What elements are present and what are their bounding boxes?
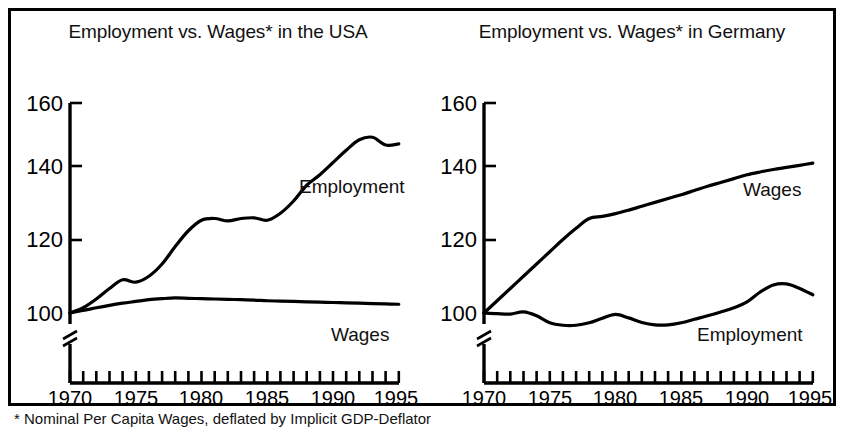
ytick-label-usa-100: 100 <box>26 301 63 326</box>
x-ticks-usa <box>70 371 399 383</box>
series-label-germany-wages: Wages <box>743 179 801 200</box>
ytick-label-de-100: 100 <box>440 301 477 326</box>
series-label-usa-employment: Employment <box>299 176 405 197</box>
xtick-label-de-1990: 1990 <box>725 387 770 409</box>
x-ticks-germany <box>484 371 813 383</box>
figure-root: Employment vs. Wages* in the USA 160 140… <box>0 0 846 428</box>
xtick-label-usa-1985: 1985 <box>245 387 290 409</box>
ytick-label-de-140: 140 <box>440 154 477 179</box>
xtick-label-usa-1975: 1975 <box>114 387 159 409</box>
ytick-label-de-160: 160 <box>440 91 477 116</box>
xtick-label-de-1970: 1970 <box>462 387 507 409</box>
xtick-label-usa-1970: 1970 <box>48 387 93 409</box>
xtick-label-usa-1995: 1995 <box>374 387 419 409</box>
xtick-label-de-1975: 1975 <box>528 387 573 409</box>
figure-frame: Employment vs. Wages* in the USA 160 140… <box>8 8 836 406</box>
xtick-label-de-1995: 1995 <box>788 387 833 409</box>
chart-panel-germany: Employment vs. Wages* in Germany 160 140… <box>425 11 839 403</box>
series-line-germany-employment <box>484 284 813 326</box>
series-line-usa-wages <box>70 298 399 313</box>
xtick-label-usa-1990: 1990 <box>311 387 356 409</box>
figure-footnote: * Nominal Per Capita Wages, deflated by … <box>14 410 431 427</box>
chart-panel-usa: Employment vs. Wages* in the USA 160 140… <box>11 11 425 403</box>
ytick-label-de-120: 120 <box>440 227 477 252</box>
ytick-label-usa-160: 160 <box>26 91 63 116</box>
ytick-label-usa-140: 140 <box>26 154 63 179</box>
xtick-label-de-1985: 1985 <box>659 387 704 409</box>
series-label-germany-employment: Employment <box>697 324 803 345</box>
ytick-label-usa-120: 120 <box>26 227 63 252</box>
series-label-usa-wages: Wages <box>331 324 389 345</box>
xtick-label-de-1980: 1980 <box>593 387 638 409</box>
series-line-usa-employment <box>70 137 399 313</box>
plot-area-usa: 160 140 120 100 <box>11 11 425 409</box>
xtick-label-usa-1980: 1980 <box>179 387 224 409</box>
plot-area-germany: 160 140 120 100 <box>425 11 839 409</box>
